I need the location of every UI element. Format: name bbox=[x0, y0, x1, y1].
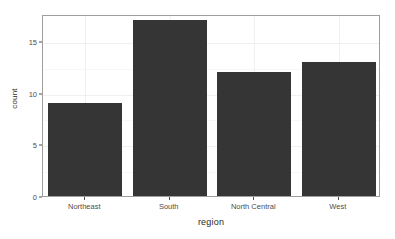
bars-group bbox=[43, 16, 379, 196]
bar bbox=[302, 62, 376, 196]
bar bbox=[48, 103, 122, 196]
bar bbox=[217, 72, 291, 196]
y-tick-label-2: 10 bbox=[29, 89, 37, 98]
x-tick-label-1: South bbox=[159, 202, 179, 211]
bar bbox=[133, 20, 207, 196]
y-tick-label-3: 15 bbox=[29, 37, 37, 46]
y-axis-ticks: 0 5 10 15 bbox=[0, 0, 42, 239]
x-tick-mark-2 bbox=[253, 197, 254, 200]
x-tick-label-3: West bbox=[329, 202, 346, 211]
x-tick-label-0: Northeast bbox=[68, 202, 101, 211]
x-tick-mark-0 bbox=[84, 197, 85, 200]
x-tick-label-2: North Central bbox=[231, 202, 276, 211]
x-axis: region NortheastSouthNorth CentralWest bbox=[42, 197, 380, 239]
y-tick-label-1: 5 bbox=[33, 141, 37, 150]
x-tick-mark-3 bbox=[338, 197, 339, 200]
plot-panel bbox=[42, 15, 380, 197]
y-tick-label-0: 0 bbox=[33, 193, 37, 202]
bar-chart: count 0 5 10 15 region NortheastSouthNor… bbox=[0, 0, 395, 239]
x-tick-mark-1 bbox=[169, 197, 170, 200]
x-axis-title: region bbox=[42, 217, 380, 227]
